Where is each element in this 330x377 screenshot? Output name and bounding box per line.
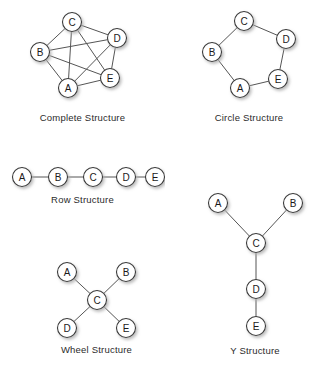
node-label: C (93, 295, 100, 306)
node-label: A (64, 267, 71, 278)
panel-wheel-structure: ABCDE Wheel Structure (14, 250, 179, 375)
node-label: D (63, 323, 70, 334)
edge-layer (218, 203, 293, 326)
node-e: E (101, 69, 120, 88)
caption-circle-structure: Circle Structure (168, 112, 330, 123)
node-label: C (240, 16, 247, 27)
node-label: D (252, 284, 259, 295)
edge-c-e (72, 22, 110, 78)
node-c: C (84, 168, 103, 187)
node-b: B (117, 263, 136, 282)
node-label: E (107, 73, 114, 84)
node-label: D (113, 33, 120, 44)
node-label: E (123, 323, 130, 334)
circle-structure-graph: ABCDE (168, 0, 330, 110)
node-e: E (146, 168, 165, 187)
node-label: A (215, 198, 222, 209)
node-e: E (117, 319, 136, 338)
caption-y-structure: Y Structure (180, 345, 330, 356)
panel-complete-structure: ABCDE Complete Structure (0, 0, 165, 140)
node-a: A (231, 79, 250, 98)
node-a: A (209, 194, 228, 213)
node-label: E (275, 74, 282, 85)
node-a: A (59, 79, 78, 98)
node-layer: ABCDE (203, 12, 296, 98)
node-a: A (58, 263, 77, 282)
caption-complete-structure: Complete Structure (0, 112, 165, 123)
node-e: E (247, 317, 266, 336)
panel-circle-structure: ABCDE Circle Structure (168, 0, 330, 140)
panel-row-structure: ABCDE Row Structure (0, 162, 165, 240)
node-label: E (253, 321, 260, 332)
node-b: B (284, 194, 303, 213)
node-c: C (88, 291, 107, 310)
node-label: B (209, 47, 216, 58)
node-a: A (13, 168, 32, 187)
node-label: B (37, 47, 44, 58)
complete-structure-graph: ABCDE (0, 0, 165, 110)
node-d: D (117, 168, 136, 187)
node-label: B (290, 198, 297, 209)
node-d: D (58, 319, 77, 338)
node-c: C (247, 234, 266, 253)
node-label: A (237, 83, 244, 94)
network-structures-figure: ABCDE Complete Structure ABCDE Circle St… (0, 0, 330, 377)
node-d: D (247, 280, 266, 299)
node-d: D (277, 30, 296, 49)
node-label: A (19, 172, 26, 183)
node-c: C (235, 12, 254, 31)
node-label: D (282, 34, 289, 45)
node-label: E (152, 172, 159, 183)
node-label: C (68, 17, 75, 28)
caption-row-structure: Row Structure (0, 194, 165, 205)
node-layer: ABCDE (31, 13, 127, 98)
node-label: D (122, 172, 129, 183)
node-layer: ABCDE (58, 263, 136, 338)
node-b: B (31, 43, 50, 62)
node-label: A (65, 83, 72, 94)
node-label: C (89, 172, 96, 183)
node-e: E (269, 70, 288, 89)
node-label: B (123, 267, 130, 278)
wheel-structure-graph: ABCDE (14, 250, 179, 342)
node-b: B (203, 43, 222, 62)
node-label: B (55, 172, 62, 183)
node-label: C (252, 238, 259, 249)
node-d: D (108, 29, 127, 48)
row-structure-graph: ABCDE (0, 162, 165, 192)
node-c: C (63, 13, 82, 32)
panel-y-structure: ABCDE Y Structure (180, 186, 330, 376)
node-b: B (49, 168, 68, 187)
y-structure-graph: ABCDE (180, 186, 330, 341)
caption-wheel-structure: Wheel Structure (14, 344, 179, 355)
